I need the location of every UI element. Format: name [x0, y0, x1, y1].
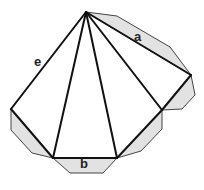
label-b: b: [80, 156, 88, 171]
label-e: e: [34, 54, 41, 69]
edge-fan-3: [86, 12, 117, 158]
label-a: a: [134, 29, 142, 44]
pyramid-net-diagram: a b e: [0, 0, 204, 190]
